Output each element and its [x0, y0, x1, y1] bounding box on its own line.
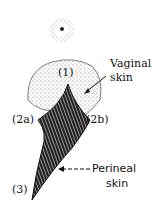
label-vaginal: Vaginal	[110, 58, 151, 69]
anatomy-diagram	[0, 0, 162, 212]
label-perineal-skin: skin	[106, 178, 128, 189]
label-vaginal-skin: skin	[110, 72, 133, 83]
label-point-2b: (2b)	[86, 114, 109, 125]
label-point-1: (1)	[58, 67, 74, 78]
label-point-2a: (2a)	[12, 114, 34, 125]
anus-outline	[50, 18, 74, 42]
label-perineal: Perineal	[92, 163, 136, 174]
label-point-3: (3)	[12, 184, 28, 195]
